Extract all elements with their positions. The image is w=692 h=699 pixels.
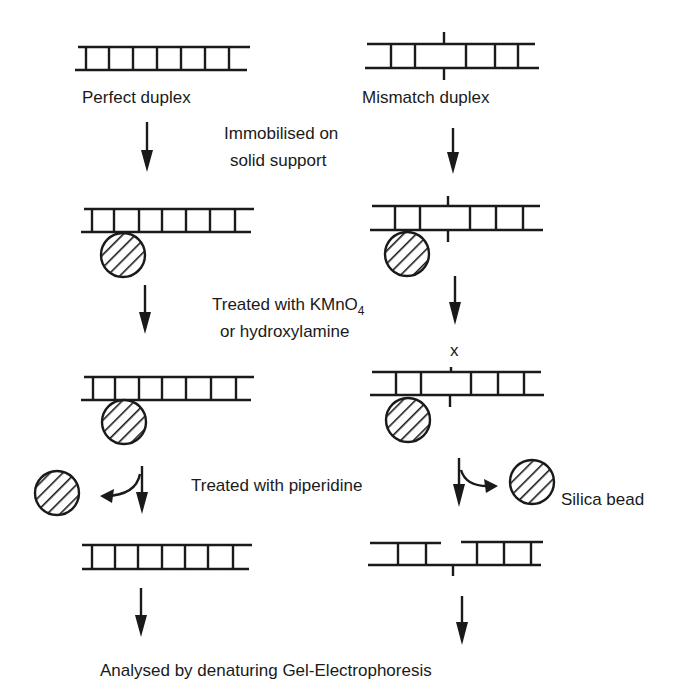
released-bead-icon	[510, 460, 554, 504]
perfect-duplex-intact	[82, 545, 252, 569]
step2-label-line1: Treated with KMnO4	[212, 295, 365, 318]
silica-bead-icon	[102, 400, 146, 444]
release-arrow-right-icon	[453, 458, 498, 507]
silica-bead-icon	[386, 398, 430, 442]
perfect-duplex-treated	[81, 377, 254, 444]
step2-label-line2: or hydroxylamine	[220, 322, 349, 341]
mismatch-duplex-immobilised	[370, 196, 543, 276]
step2-text: Treated with KMnO	[212, 295, 358, 314]
perfect-duplex-label: Perfect duplex	[82, 88, 191, 107]
release-arrow-left-icon	[100, 466, 148, 514]
perfect-duplex-immobilised	[81, 209, 254, 277]
arrow-down-icon	[456, 596, 468, 645]
mismatch-oxidation-mark: x	[450, 341, 459, 360]
step1-label-line1: Immobilised on	[224, 124, 338, 143]
mismatch-duplex-cleaved	[368, 542, 543, 576]
step1-label-line2: solid support	[230, 151, 327, 170]
mismatch-cleavage-diagram: Perfect duplex Mismatch duplex Immobilis…	[0, 0, 692, 699]
final-step-label: Analysed by denaturing Gel-Electrophores…	[100, 661, 432, 680]
arrow-down-icon	[135, 588, 147, 637]
mismatch-duplex-label: Mismatch duplex	[362, 88, 490, 107]
arrow-down-icon	[141, 122, 153, 172]
arrow-down-icon	[139, 285, 151, 334]
mismatch-duplex-treated	[370, 367, 544, 442]
released-bead-icon	[35, 471, 79, 515]
step3-label: Treated with piperidine	[191, 476, 362, 495]
perfect-duplex	[75, 47, 250, 70]
mismatch-duplex	[365, 32, 539, 80]
silica-bead-icon	[101, 233, 145, 277]
arrow-down-icon	[447, 128, 459, 174]
silica-bead-label: Silica bead	[561, 490, 644, 509]
silica-bead-icon	[385, 232, 429, 276]
arrow-down-icon	[449, 276, 461, 325]
step2-subscript: 4	[358, 304, 365, 318]
